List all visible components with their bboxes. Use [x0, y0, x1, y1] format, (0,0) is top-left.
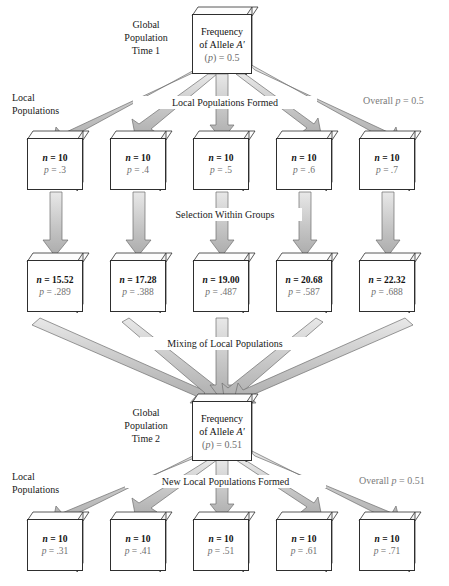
box-front-face: n = 10 p = .7 — [359, 138, 415, 190]
global-t1-line2: Population — [106, 31, 186, 44]
label-overall-p-top: Overall p = 0.5 — [363, 94, 424, 107]
arrow-t2-to-pop3 — [210, 460, 234, 519]
local-pops-top-line1: Local — [12, 91, 59, 104]
box-n-value: n = 10 — [126, 152, 151, 164]
box-front-face: n = 22.32 p = .688 — [359, 260, 415, 312]
box-n-value: n = 22.32 — [369, 274, 406, 286]
global-t1-allele-line: of Allele A′ — [199, 38, 245, 51]
label-mixing-of-local-populations: Mixing of Local Populations — [140, 337, 310, 350]
arrow-selection-1 — [43, 192, 68, 256]
label-local-populations-top: Local Populations — [12, 91, 59, 117]
box-p-value: p = .31 — [42, 545, 69, 557]
population-box: n = 17.28 p = .388 — [110, 253, 168, 305]
box-p-value: p = .388 — [122, 286, 153, 298]
box-front-face: n = 10 p = .3 — [27, 138, 83, 190]
box-n-value: n = 20.68 — [286, 274, 323, 286]
arrow-selection-4 — [293, 192, 317, 256]
population-box: n = 20.68 p = .587 — [276, 253, 334, 305]
box-front-face: n = 10 p = .41 — [110, 519, 166, 571]
box-n-value: n = 10 — [292, 533, 317, 545]
population-box: n = 10 p = .7 — [359, 131, 417, 183]
box-p-value: p = .5 — [210, 164, 232, 176]
box-p-value: p = .289 — [39, 286, 70, 298]
box-n-value: n = 10 — [43, 152, 68, 164]
population-box: n = 10 p = .61 — [276, 512, 334, 564]
box-n-value: n = 10 — [375, 533, 400, 545]
arrow-t2-to-pop4 — [236, 460, 322, 518]
box-front-face: n = 10 p = .6 — [276, 138, 332, 190]
box-p-value: p = .487 — [205, 286, 236, 298]
box-n-value: n = 10 — [209, 533, 234, 545]
box-front-face: n = 10 p = .71 — [359, 519, 415, 571]
box-front-face: n = 10 p = .51 — [193, 519, 249, 571]
global-t2-line2: Population — [106, 419, 186, 432]
local-pops-bottom-line2: Populations — [12, 483, 59, 496]
box-p-value: p = .688 — [371, 286, 402, 298]
population-box: n = 10 p = .5 — [193, 131, 251, 183]
box-front-face: n = 10 p = .31 — [27, 519, 83, 571]
box-p-value: p = .51 — [208, 545, 235, 557]
box-front-face: n = 17.28 p = .388 — [110, 260, 166, 312]
box-n-value: n = 10 — [375, 152, 400, 164]
box-p-value: p = .3 — [44, 164, 66, 176]
global-t2-p-value: (p) = 0.51 — [202, 438, 242, 451]
arrow-t2-to-pop2 — [132, 460, 217, 519]
box-n-value: n = 10 — [292, 152, 317, 164]
box-front-face: Frequency of Allele A′ (p) = 0.51 — [192, 401, 252, 461]
arrow-mix-1 — [32, 318, 213, 404]
arrow-mix-5 — [233, 318, 413, 404]
population-box: n = 10 p = .41 — [110, 512, 168, 564]
label-local-populations-bottom: Local Populations — [12, 470, 59, 496]
global-t1-p-value: (p) = 0.5 — [205, 51, 240, 64]
box-n-value: n = 10 — [126, 533, 151, 545]
box-n-value: n = 10 — [209, 152, 234, 164]
global-t2-frequency-line: Frequency — [201, 412, 243, 425]
box-front-face: n = 10 p = .61 — [276, 519, 332, 571]
global-population-box-time-2: Frequency of Allele A′ (p) = 0.51 — [192, 394, 254, 454]
box-n-value: n = 10 — [43, 533, 68, 545]
box-n-value: n = 19.00 — [203, 274, 240, 286]
global-t2-line1: Global — [106, 406, 186, 419]
global-t2-line3: Time 2 — [106, 432, 186, 445]
box-front-face: n = 15.52 p = .289 — [27, 260, 83, 312]
box-p-value: p = .4 — [127, 164, 149, 176]
population-box: n = 10 p = .51 — [193, 512, 251, 564]
population-box: n = 22.32 p = .688 — [359, 253, 417, 305]
global-population-box-time-1: Frequency of Allele A′ (p) = 0.5 — [192, 7, 254, 67]
box-p-value: p = .6 — [293, 164, 315, 176]
population-box: n = 10 p = .6 — [276, 131, 334, 183]
population-box: n = 19.00 p = .487 — [193, 253, 251, 305]
label-new-local-populations-formed: New Local Populations Formed — [125, 475, 326, 488]
arrow-selection-3 — [210, 192, 234, 256]
box-front-face: n = 20.68 p = .587 — [276, 260, 332, 312]
box-p-value: p = .7 — [376, 164, 398, 176]
label-local-populations-formed: Local Populations Formed — [133, 96, 317, 109]
box-p-value: p = .41 — [125, 545, 152, 557]
box-p-value: p = .71 — [374, 545, 401, 557]
figure-canvas: Global Population Time 1 Local Populatio… — [0, 0, 449, 586]
box-front-face: n = 19.00 p = .487 — [193, 260, 249, 312]
population-box: n = 10 p = .71 — [359, 512, 417, 564]
population-box: n = 10 p = .3 — [27, 131, 85, 183]
box-p-value: p = .587 — [288, 286, 319, 298]
box-n-value: n = 15.52 — [37, 274, 74, 286]
box-front-face: n = 10 p = .5 — [193, 138, 249, 190]
label-overall-p-bottom: Overall p = 0.51 — [359, 474, 425, 487]
global-t1-line1: Global — [106, 18, 186, 31]
label-global-population-time-1: Global Population Time 1 — [106, 18, 186, 57]
global-t1-frequency-line: Frequency — [201, 25, 243, 38]
global-t1-line3: Time 1 — [106, 44, 186, 57]
box-front-face: n = 10 p = .4 — [110, 138, 166, 190]
local-pops-top-line2: Populations — [12, 104, 59, 117]
population-box: n = 10 p = .4 — [110, 131, 168, 183]
population-box: n = 15.52 p = .289 — [27, 253, 85, 305]
label-global-population-time-2: Global Population Time 2 — [106, 406, 186, 445]
local-pops-bottom-line1: Local — [12, 470, 59, 483]
box-p-value: p = .61 — [291, 545, 318, 557]
arrow-selection-2 — [126, 192, 151, 256]
global-t2-allele-line: of Allele A′ — [199, 425, 245, 438]
arrow-selection-5 — [376, 192, 400, 256]
label-selection-within-groups: Selection Within Groups — [148, 208, 302, 221]
box-n-value: n = 17.28 — [120, 274, 157, 286]
box-front-face: Frequency of Allele A′ (p) = 0.5 — [192, 14, 252, 74]
